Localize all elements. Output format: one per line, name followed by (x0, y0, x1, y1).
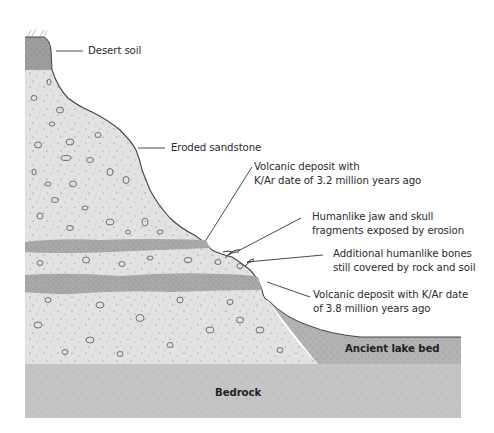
label-jaw-line2: fragments exposed by erosion (312, 224, 464, 237)
desert-soil-layer (25, 37, 52, 70)
label-jaw-line1: Humanlike jaw and skull (312, 210, 433, 223)
label-volcanic-lower-line1: Volcanic deposit with K/Ar date (313, 288, 468, 301)
label-bones-line1: Additional humanlike bones (333, 247, 472, 260)
label-bedrock: Bedrock (215, 386, 261, 399)
label-eroded-sandstone: Eroded sandstone (171, 141, 261, 154)
grass-tufts-icon (28, 29, 47, 36)
label-volcanic-lower-line2: of 3.8 million years ago (313, 302, 431, 315)
label-desert-soil: Desert soil (88, 44, 141, 57)
sandstone-layer (25, 70, 318, 364)
label-lake-bed: Ancient lake bed (345, 342, 439, 355)
label-volcanic-upper-line1: Volcanic deposit with (254, 160, 360, 173)
label-bones-line2: still covered by rock and soil (333, 261, 475, 274)
label-volcanic-upper-line2: K/Ar date of 3.2 million years ago (254, 174, 421, 187)
